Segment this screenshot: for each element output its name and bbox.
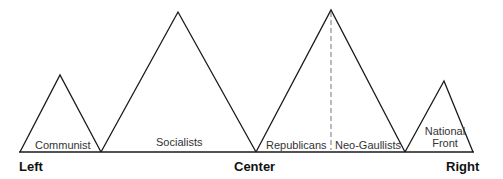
axis-label-right: Right	[446, 159, 479, 174]
national-front-label-line1: National	[423, 125, 467, 137]
national-front-label-line2: Front	[423, 137, 467, 149]
communist-label: Communist	[35, 139, 91, 151]
socialists-peak	[101, 12, 256, 152]
neo-gaullists-label: Neo-Gaullists	[335, 139, 401, 151]
socialists-label: Socialists	[156, 136, 202, 148]
republicans-label: Republicans	[266, 139, 327, 151]
axis-label-center: Center	[234, 159, 275, 174]
axis-label-left: Left	[19, 159, 43, 174]
spectrum-diagram	[0, 0, 503, 179]
